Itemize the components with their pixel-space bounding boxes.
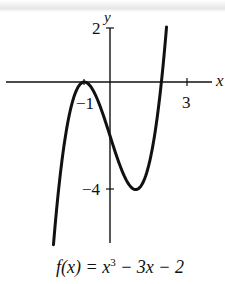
y-axis-label: y [104, 10, 111, 25]
y-tick-label-neg4: −4 [82, 181, 100, 198]
y-tick-label-2: 2 [92, 20, 101, 37]
x-tick-label-3: 3 [182, 94, 191, 111]
x-axis-label: x [216, 72, 224, 89]
function-plot [0, 0, 225, 284]
caption-suffix: − 3x − 2 [116, 257, 184, 277]
function-caption: f(x) = x3 − 3x − 2 [40, 256, 200, 278]
x-tick-label-neg1: −1 [76, 95, 94, 112]
caption-prefix: f(x) = x [56, 257, 110, 277]
